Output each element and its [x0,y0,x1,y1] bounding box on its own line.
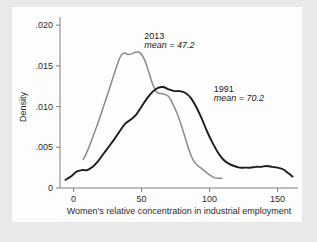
y-axis-title: Density [18,91,28,122]
y-tick-label: .010 [35,102,53,112]
density-plot: 0.005.010.015.020 Density 050100150 Wome… [12,7,302,222]
y-axis-group: 0.005.010.015.020 Density [18,17,60,193]
annotation-2013-mean: mean = 47.2 [144,40,194,50]
y-tick-labels: 0.005.010.015.020 [35,20,53,193]
x-tick-label: 0 [71,194,76,204]
x-tick-labels: 050100150 [71,194,285,204]
y-tick-label: .005 [35,142,53,152]
chart-panel: 0.005.010.015.020 Density 050100150 Wome… [12,7,302,222]
x-axis-group: 050100150 Women's relative concentration… [60,188,298,216]
figure-root: 0.005.010.015.020 Density 050100150 Wome… [0,0,317,242]
y-tick-label: .020 [35,20,53,30]
x-tick-label: 100 [202,194,217,204]
x-tick-marks [74,188,278,192]
x-tick-label: 50 [137,194,147,204]
series-group [65,52,292,180]
x-tick-label: 150 [270,194,285,204]
y-tick-label: .015 [35,61,53,71]
annotation-group: 2013 mean = 47.2 1991 mean = 70.2 [144,31,264,103]
x-axis-title: Women's relative concentration in indust… [67,206,292,216]
y-tick-label: 0 [48,183,53,193]
y-tick-marks [56,25,60,188]
annotation-1991-mean: mean = 70.2 [214,93,264,103]
